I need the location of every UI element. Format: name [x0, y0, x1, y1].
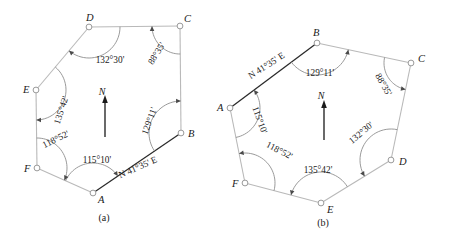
angle-arrow-a-C — [150, 26, 155, 31]
vertex-label-b-A: A — [216, 102, 224, 113]
panel-a: 115°10'129°11'88°35'132°30'135°42'118°52… — [22, 12, 195, 224]
vertex-label-a-F: F — [23, 163, 31, 174]
vertex-a-A — [90, 190, 96, 196]
traverse-diagram-svg: 115°10'129°11'88°35'132°30'135°42'118°52… — [0, 0, 449, 237]
vertex-a-E — [33, 87, 39, 93]
vertex-label-a-B: B — [188, 128, 195, 139]
north-arrow-head-b — [321, 100, 327, 108]
vertex-b-B — [314, 40, 320, 46]
vertex-label-b-F: F — [231, 178, 239, 189]
vertex-b-F — [242, 180, 248, 186]
angle-label-a-C: 88°35' — [146, 40, 167, 66]
edge-EF — [36, 90, 37, 168]
edge-BC — [180, 26, 181, 133]
angle-arrow-a-D — [69, 51, 74, 56]
vertex-label-a-A: A — [97, 194, 105, 205]
vertex-b-C — [408, 60, 414, 66]
edge-CD — [391, 63, 411, 160]
angle-arrow-b-E — [290, 190, 294, 195]
vertex-a-F — [34, 165, 40, 171]
figure-canvas: 115°10'129°11'88°35'132°30'135°42'118°52… — [0, 0, 449, 237]
edge-AB — [230, 43, 317, 108]
panel-b: 115°10'129°11'88°35'132°30'135°42'118°52… — [216, 27, 426, 229]
north-label-b: N — [317, 90, 326, 101]
vertex-b-E — [318, 200, 324, 206]
north-label-a: N — [98, 86, 107, 97]
panel-caption-b: (b) — [317, 217, 329, 229]
edge-EF — [245, 183, 321, 203]
vertex-label-b-C: C — [418, 53, 426, 64]
angle-arrow-b-F — [239, 150, 244, 155]
panel-caption-a: (a) — [98, 212, 109, 224]
angle-label-a-F: 118°52' — [41, 128, 71, 150]
angle-label-a-B: 129°11' — [140, 106, 159, 136]
vertex-label-a-E: E — [22, 84, 30, 95]
vertex-a-B — [178, 130, 184, 136]
angle-label-a-D: 132°30' — [96, 55, 125, 65]
angle-arrow-b-C — [401, 86, 406, 91]
vertex-a-D — [86, 24, 92, 30]
angle-arrow-a-B — [176, 99, 181, 104]
edge-BC — [317, 43, 411, 63]
vertex-b-D — [388, 157, 394, 163]
angle-label-b-D: 132°30' — [347, 119, 376, 145]
angle-label-b-C: 88°35' — [373, 72, 394, 98]
edge-DE — [36, 27, 89, 90]
angle-label-b-E: 135°42' — [304, 165, 333, 175]
angle-arrow-a-E — [36, 118, 41, 123]
edge-CD — [89, 26, 180, 27]
angle-label-b-F: 118°52' — [264, 139, 294, 161]
angle-label-b-B: 129°11' — [306, 68, 335, 78]
angle-label-b-A: 115°10' — [250, 105, 269, 135]
angle-arrow-b-B — [345, 50, 350, 55]
vertex-label-b-B: B — [313, 27, 320, 38]
angle-arc-a-A — [66, 163, 118, 181]
bearing-label-a: N 41°35' E — [117, 154, 159, 180]
vertex-label-a-C: C — [184, 13, 192, 24]
angle-label-a-A: 115°10' — [83, 155, 112, 165]
edge-FA — [230, 108, 245, 183]
vertex-label-a-D: D — [85, 12, 94, 23]
angle-arc-b-D — [360, 129, 397, 176]
bearing-label-b: N 41°35' E — [246, 50, 286, 81]
edge-FA — [37, 168, 93, 193]
vertex-b-A — [227, 105, 233, 111]
vertex-label-b-D: D — [398, 156, 407, 167]
vertex-a-C — [177, 23, 183, 29]
vertex-label-b-E: E — [326, 204, 334, 215]
angle-label-a-E: 135°42' — [52, 95, 70, 126]
